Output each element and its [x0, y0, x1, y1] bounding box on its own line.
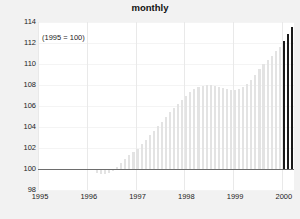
bar: [254, 75, 256, 170]
bar: [185, 96, 187, 170]
bar: [206, 85, 208, 169]
bar: [181, 100, 183, 169]
y-axis-tick-label: 110: [2, 60, 36, 68]
bar: [258, 69, 260, 169]
bar: [287, 34, 289, 169]
bar: [271, 56, 273, 169]
bar: [279, 47, 281, 169]
chart-subtitle: monthly: [0, 2, 300, 13]
x-axis-tick-label: 1999: [227, 192, 244, 201]
bar: [132, 152, 134, 169]
index-base-annotation: (1995 = 100): [42, 33, 85, 42]
bar: [165, 117, 167, 170]
bar: [161, 122, 163, 169]
bar: [275, 51, 277, 169]
bar: [141, 144, 143, 169]
bar: [197, 87, 199, 169]
x-axis-tick-label: 2000: [275, 192, 292, 201]
bar: [238, 89, 240, 169]
x-axis-tick-label: 1998: [178, 192, 195, 201]
y-axis-tick-label: 106: [2, 102, 36, 110]
bar: [145, 140, 147, 169]
bar: [124, 159, 126, 170]
x-axis-tick-label: 1996: [80, 192, 97, 201]
bar: [283, 41, 285, 169]
bar: [226, 89, 228, 169]
bar: [157, 126, 159, 169]
bar: [202, 86, 204, 169]
bar: [128, 155, 130, 169]
bar: [153, 131, 155, 169]
y-axis-tick-label: 104: [2, 123, 36, 131]
bar-series: [38, 22, 294, 190]
chart-screenshot: monthly 11411211010810610410210098 19951…: [0, 0, 300, 219]
bar: [214, 86, 216, 169]
bar: [169, 112, 171, 169]
bar: [193, 89, 195, 169]
y-axis-tick-label: 108: [2, 81, 36, 89]
bar: [291, 27, 293, 169]
x-axis: 199519961997199819992000: [38, 192, 294, 206]
bar: [242, 87, 244, 169]
bar: [250, 80, 252, 169]
plot-area: [38, 22, 294, 190]
gridline-horizontal: [38, 190, 294, 191]
baseline-100: [38, 169, 294, 170]
y-axis-tick-label: 102: [2, 144, 36, 152]
x-axis-tick-label: 1997: [129, 192, 146, 201]
bar: [173, 108, 175, 169]
bar: [149, 135, 151, 169]
x-axis-tick-label: 1995: [32, 192, 49, 201]
bar: [262, 64, 264, 169]
y-axis-tick-label: 100: [2, 165, 36, 173]
bar: [246, 84, 248, 169]
y-axis-tick-label: 112: [2, 39, 36, 47]
y-axis: 11411211010810610410210098: [0, 22, 36, 190]
bar: [177, 104, 179, 169]
bar: [234, 90, 236, 169]
y-axis-tick-label: 114: [2, 18, 36, 26]
bar: [210, 85, 212, 169]
bar: [136, 149, 138, 169]
bar: [267, 60, 269, 169]
bar: [189, 92, 191, 169]
bar: [218, 87, 220, 169]
bar: [230, 90, 232, 169]
bar: [222, 88, 224, 169]
